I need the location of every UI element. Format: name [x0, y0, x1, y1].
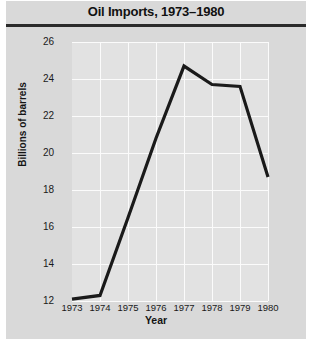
- data-series-line: [72, 42, 268, 301]
- chart-figure: Oil Imports, 1973–1980 Billions of barre…: [6, 1, 306, 339]
- y-axis-tick-label: 24: [24, 73, 54, 84]
- y-axis-tick-label: 14: [24, 258, 54, 269]
- chart-title-bar: Oil Imports, 1973–1980: [6, 1, 306, 27]
- y-axis-tick-label: 20: [24, 147, 54, 158]
- y-axis-tick-label: 18: [24, 184, 54, 195]
- x-axis-title: Year: [6, 314, 306, 326]
- y-axis-tick-label: 22: [24, 110, 54, 121]
- plot-area: [72, 42, 268, 301]
- x-axis-tick-label: 1980: [248, 302, 288, 313]
- y-axis-tick-label: 26: [24, 36, 54, 47]
- y-axis-tick-label: 16: [24, 221, 54, 232]
- page-title: Oil Imports, 1973–1980: [6, 4, 306, 19]
- gridline-horizontal: [72, 301, 268, 302]
- y-axis-tick-label: 12: [24, 295, 54, 306]
- gridline-vertical: [268, 42, 269, 301]
